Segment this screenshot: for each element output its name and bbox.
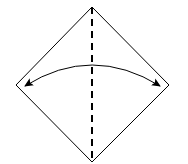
origami-diagram [0,0,188,164]
fold-diagram-canvas [0,0,188,164]
